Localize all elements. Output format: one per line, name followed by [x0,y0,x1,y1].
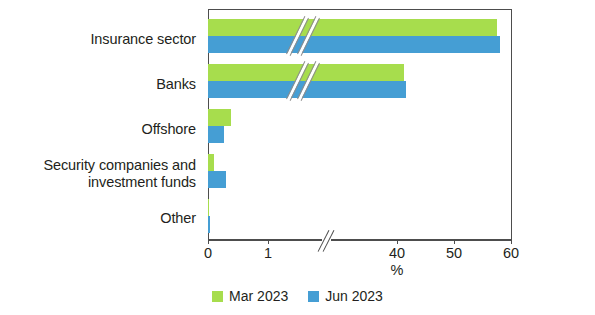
bar-mar-2023-security-companies-and-investment-funds [208,154,214,171]
legend: Mar 2023 Jun 2023 [0,288,595,304]
x-axis-break-mark [322,231,331,251]
category-label-offshore: Offshore [0,121,202,138]
x-axis-tick-50 [454,240,455,244]
category-axis-labels: Insurance sector Banks Offshore Security… [0,9,202,240]
legend-label-mar-2023: Mar 2023 [229,288,288,304]
bar-mar-2023-offshore [208,109,231,126]
bar-jun-2023-other [208,216,210,233]
bar-jun-2023-insurance-sector [208,36,500,53]
x-axis-title: % [377,262,417,278]
x-axis-tick-1 [268,240,269,244]
category-label-banks: Banks [0,76,202,93]
x-axis-tick-label-40: 40 [377,245,417,262]
plot-area [208,9,512,240]
x-axis-tick-label-1: 1 [248,245,288,262]
bar-mar-2023-insurance-sector [208,19,497,36]
x-axis-tick-40 [397,240,398,244]
x-axis-tick-label-0: 0 [188,245,228,262]
category-label-insurance-sector: Insurance sector [0,31,202,48]
bar-jun-2023-security-companies-and-investment-funds [208,171,226,188]
x-axis-tick-label-50: 50 [434,245,474,262]
legend-swatch-jun-2023 [308,291,319,302]
x-axis-line [208,240,512,241]
legend-label-jun-2023: Jun 2023 [325,288,383,304]
bar-chart: Insurance sector Banks Offshore Security… [0,0,595,315]
bar-jun-2023-offshore [208,126,224,143]
category-label-security-companies-and-investment-funds: Security companies and investment funds [0,157,202,191]
legend-swatch-mar-2023 [212,291,223,302]
x-axis-tick-60 [511,240,512,244]
x-axis-tick-0 [208,240,209,244]
category-label-other: Other [0,210,202,227]
legend-item-mar-2023: Mar 2023 [212,288,288,304]
legend-item-jun-2023: Jun 2023 [308,288,383,304]
x-axis-tick-label-60: 60 [491,245,531,262]
bar-mar-2023-other [208,199,209,216]
